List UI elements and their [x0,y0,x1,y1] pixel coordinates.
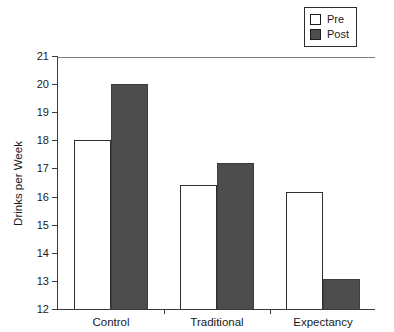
y-tick-label: 15 [37,219,49,230]
y-tick-label: 13 [37,275,49,286]
legend-label-pre: Pre [327,14,344,25]
x-axis-label-control: Control [92,316,129,329]
y-tick-mark [52,112,58,113]
y-tick-label: 14 [37,247,49,258]
bar-chart-figure: Pre Post Drinks per Week 121314151617181… [0,0,394,332]
x-tick-mark [270,309,271,314]
plot-area: 12131415161718192021 ControlTraditionalE… [57,57,375,310]
bar-traditional-post [217,163,254,309]
x-axis-label-expectancy: Expectancy [293,316,352,329]
white-square-icon [310,14,321,25]
y-tick-label: 18 [37,135,49,146]
y-tick-mark [52,253,58,254]
dark-square-icon [310,29,321,40]
legend-item-post: Post [310,27,349,42]
y-tick-label: 20 [37,79,49,90]
bar-control-pre [74,140,111,309]
y-tick-mark [52,140,58,141]
y-tick-mark [52,168,58,169]
y-tick-mark [52,225,58,226]
y-tick-mark [52,309,58,310]
bar-expectancy-post [323,279,360,309]
y-tick-label: 19 [37,107,49,118]
legend-item-pre: Pre [310,12,349,27]
y-tick-mark [52,197,58,198]
x-axis-label-traditional: Traditional [190,316,243,329]
y-tick-label: 12 [37,304,49,315]
y-tick-mark [52,281,58,282]
y-tick-label: 16 [37,191,49,202]
x-tick-mark [164,309,165,314]
y-tick-label: 17 [37,163,49,174]
y-tick-label: 21 [37,51,49,62]
y-tick-mark [52,56,58,57]
bar-control-post [111,84,148,309]
y-axis-title: Drinks per Week [10,57,26,310]
bar-traditional-pre [180,185,217,309]
legend-label-post: Post [327,29,349,40]
y-tick-mark [52,84,58,85]
chart-legend: Pre Post [304,7,357,47]
bar-expectancy-pre [286,192,323,309]
